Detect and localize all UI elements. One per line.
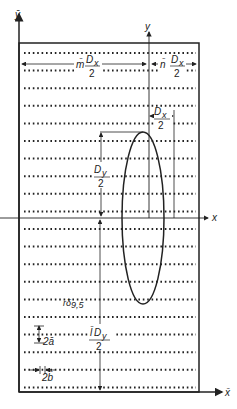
ellipse-dx-num: D: [154, 106, 161, 117]
row-spacing-label: 2ā: [42, 336, 55, 347]
m-dx-den: 2: [89, 68, 95, 79]
dot-spacing-label: 2b̄: [41, 371, 54, 383]
global-y-label: ȳ: [14, 9, 21, 20]
l-dy-sub: y: [101, 331, 107, 341]
l-dy-num: D: [94, 327, 101, 338]
ellipse-inclusion-diagram: ȳ x̄ y x m̄ D x 2 n̄ D x 2 D x 2 D y 2 l…: [0, 0, 237, 409]
ellipse-dx-den: 2: [158, 120, 164, 131]
delta-label: rδ9,5: [63, 298, 85, 310]
n-dx-num: D: [171, 54, 178, 65]
m-dx-num: D: [86, 54, 93, 65]
ellipse-dy-den: 2: [98, 178, 104, 189]
ellipse-dy-sub: y: [101, 168, 107, 178]
n-dx-sub: x: [178, 58, 184, 68]
ellipse-dy-num: D: [94, 164, 101, 175]
local-y-label: y: [144, 21, 151, 32]
l-dy-den: 2: [96, 341, 102, 352]
global-x-label: x̄: [224, 387, 231, 398]
m-dx-prefix: m̄: [76, 58, 84, 70]
local-x-label: x: [211, 212, 218, 223]
ellipse-dx-sub: x: [161, 110, 167, 120]
m-dx-sub: x: [93, 58, 99, 68]
n-dx-prefix: n̄: [160, 58, 166, 70]
n-dx-den: 2: [174, 68, 180, 79]
